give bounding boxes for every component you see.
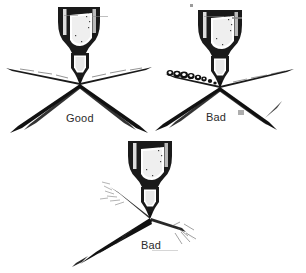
air-cap-inner-shade: [143, 150, 162, 178]
nozzle-bad-1: [198, 10, 242, 87]
scan-speck: [152, 250, 178, 251]
spray-arm-lower-right-core: [219, 88, 267, 125]
air-cap-notch-left: [63, 9, 67, 35]
spray-arm-horizontal-right: [80, 67, 152, 85]
air-cap-inner-shade: [72, 16, 90, 44]
spray-arm-horizontal-right: [220, 69, 294, 88]
panel-bad-2: [60, 136, 246, 273]
air-cap-notch-right: [165, 143, 169, 167]
spray-fan-bad-2: [72, 182, 196, 267]
fluid-tip-shade: [216, 60, 225, 74]
scan-speck: [238, 110, 244, 115]
nozzle-good: [58, 7, 100, 84]
fluid-tip-shade: [76, 57, 85, 71]
scan-speck: [64, 15, 78, 16]
scan-speck: [190, 4, 193, 7]
spray-arm-horizontal-left: [6, 68, 80, 85]
air-cap-notch-left: [133, 143, 137, 169]
air-cap-inner-shade: [213, 19, 232, 47]
spray-pattern-figure: Good: [0, 0, 306, 273]
panel-bad-1: [153, 0, 306, 136]
scan-speck: [204, 16, 224, 17]
spray-wisp-upper-left: [100, 182, 124, 205]
spray-streak-fork: [265, 101, 282, 118]
air-cap-notch-right: [235, 12, 239, 36]
caption-bad-1: Bad: [206, 111, 226, 124]
scan-speck: [232, 17, 242, 19]
spray-arm-lower-left: [155, 87, 221, 131]
caption-good: Good: [66, 112, 94, 125]
air-cap-notch-right: [93, 9, 97, 33]
nozzle-bad-2: [128, 141, 172, 218]
scan-speck: [92, 16, 108, 17]
spray-streak-tail: [72, 256, 88, 267]
fluid-tip-shade: [146, 191, 155, 205]
spray-illustration-bad-lopsided: [60, 136, 246, 273]
spray-arm-lower-left: [10, 84, 81, 133]
spray-illustration-bad-spatter: [153, 0, 306, 136]
spray-arm-lower-right: [151, 218, 194, 240]
spray-feathering-bad-1: [233, 71, 285, 82]
spray-arm-lower-right: [79, 84, 148, 133]
spray-wisp-lower-right: [172, 222, 196, 244]
